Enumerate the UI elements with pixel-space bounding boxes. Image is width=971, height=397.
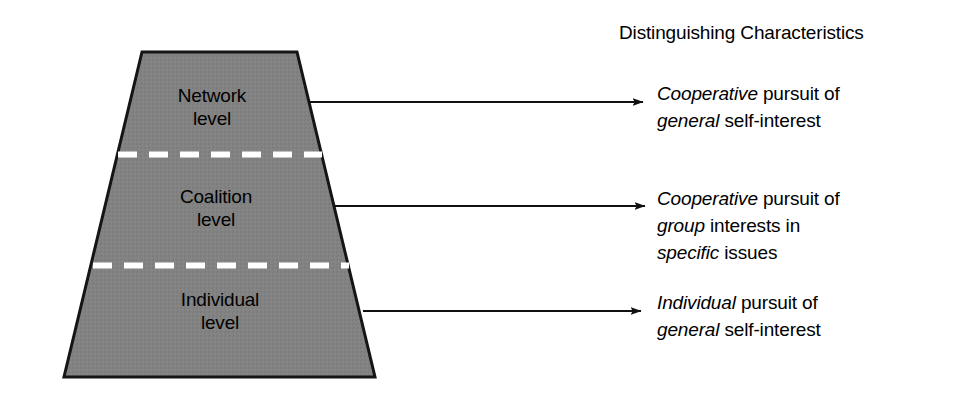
diagram-figure: Network level Coalition level Individual… bbox=[0, 0, 971, 397]
annotation-line: general self-interest bbox=[657, 316, 967, 343]
pyramid-body bbox=[64, 52, 375, 377]
characteristics-title: Distinguishing Characteristics bbox=[619, 22, 864, 44]
annotation-line: general self-interest bbox=[657, 107, 967, 134]
plain-text: pursuit of bbox=[736, 292, 818, 313]
plain-text: interests in bbox=[705, 215, 800, 236]
emphasis-text: group bbox=[657, 215, 705, 236]
annotation-network-characteristic: Cooperative pursuit ofgeneral self-inter… bbox=[657, 80, 967, 134]
annotation-line: Individual pursuit of bbox=[657, 289, 967, 316]
annotation-coalition-characteristic: Cooperative pursuit ofgroup interests in… bbox=[657, 185, 967, 266]
plain-text: self-interest bbox=[719, 319, 820, 340]
plain-text: self-interest bbox=[719, 110, 820, 131]
annotation-line: group interests in bbox=[657, 212, 967, 239]
emphasis-text: Cooperative bbox=[657, 83, 758, 104]
emphasis-text: specific bbox=[657, 242, 719, 263]
annotation-line: specific issues bbox=[657, 239, 967, 266]
annotation-individual-characteristic: Individual pursuit ofgeneral self-intere… bbox=[657, 289, 967, 343]
annotation-line: Cooperative pursuit of bbox=[657, 185, 967, 212]
emphasis-text: Individual bbox=[657, 292, 736, 313]
emphasis-text: Cooperative bbox=[657, 188, 758, 209]
plain-text: issues bbox=[719, 242, 777, 263]
emphasis-text: general bbox=[657, 319, 719, 340]
plain-text: pursuit of bbox=[758, 188, 840, 209]
annotation-line: Cooperative pursuit of bbox=[657, 80, 967, 107]
plain-text: pursuit of bbox=[758, 83, 840, 104]
emphasis-text: general bbox=[657, 110, 719, 131]
